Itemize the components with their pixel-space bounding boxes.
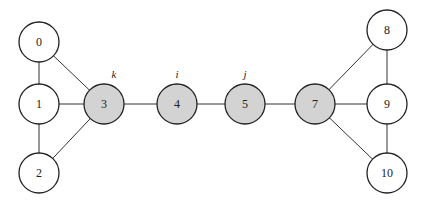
node-4: 4i — [157, 68, 197, 124]
node-0: 0 — [19, 22, 59, 62]
node-label: 7 — [312, 97, 318, 111]
node-annotation: j — [241, 68, 246, 80]
node-7: 7 — [295, 84, 335, 124]
node-3: 3k — [84, 68, 124, 124]
node-1: 1 — [19, 84, 59, 124]
node-label: 5 — [242, 97, 248, 111]
node-8: 8 — [367, 10, 407, 50]
node-5: 5j — [225, 68, 265, 124]
node-label: 8 — [384, 23, 390, 37]
node-label: 2 — [36, 166, 42, 180]
nodes-layer: 0123k4i5j78910 — [19, 10, 407, 193]
node-annotation: i — [175, 68, 178, 80]
graph-diagram: 0123k4i5j78910 — [0, 0, 426, 203]
node-annotation: k — [112, 68, 118, 80]
node-label: 1 — [36, 97, 42, 111]
node-label: 10 — [381, 166, 393, 180]
node-2: 2 — [19, 153, 59, 193]
node-label: 3 — [101, 97, 107, 111]
node-label: 0 — [36, 35, 42, 49]
node-9: 9 — [367, 84, 407, 124]
node-label: 9 — [384, 97, 390, 111]
node-10: 10 — [367, 153, 407, 193]
node-label: 4 — [174, 97, 180, 111]
